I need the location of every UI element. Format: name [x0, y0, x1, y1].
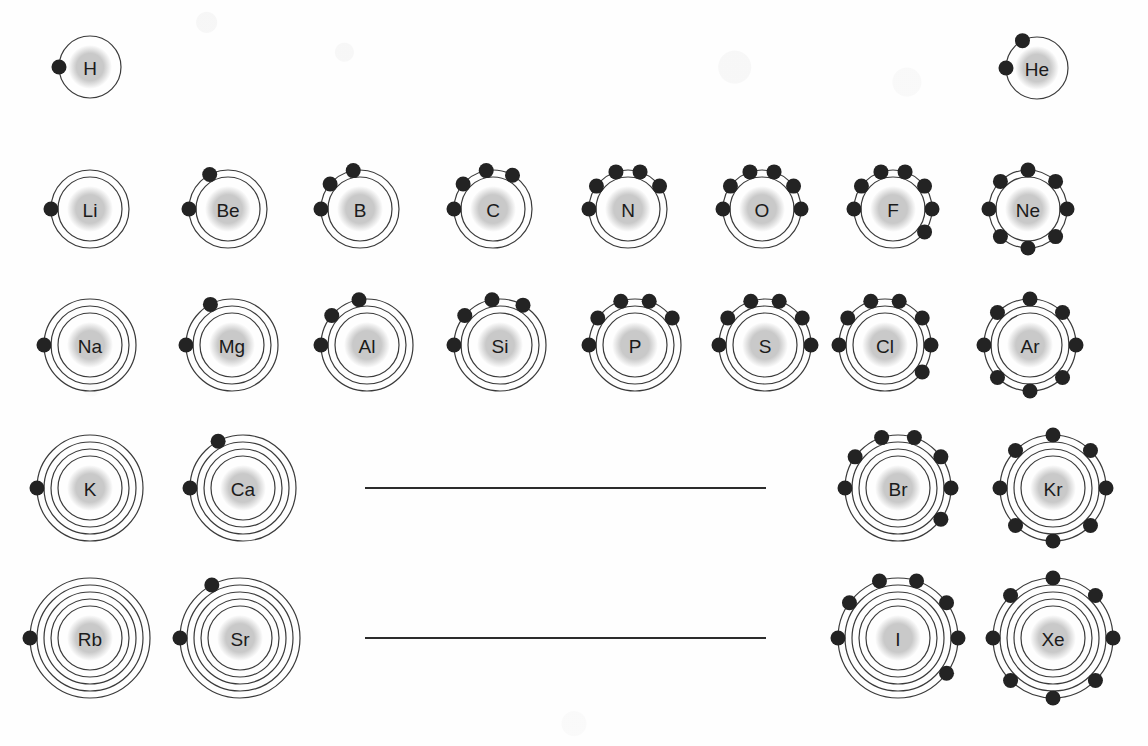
electron — [589, 179, 604, 194]
element-symbol: Rb — [78, 629, 102, 650]
electron — [1008, 443, 1023, 458]
electron — [933, 512, 948, 527]
electron — [898, 164, 913, 179]
element-symbol: K — [84, 479, 97, 500]
electron — [786, 179, 801, 194]
electron — [456, 176, 471, 191]
atom-he: He — [994, 25, 1081, 112]
electron — [925, 202, 940, 217]
atom-mg: Mg — [174, 287, 291, 404]
electron — [939, 595, 954, 610]
electron — [1055, 305, 1070, 320]
element-symbol: Sr — [231, 629, 251, 650]
diagram-canvas: HHeLiBeBCNOFNeNaMgAlSiPSClArKCaBrKrRbSrI… — [0, 0, 1148, 746]
element-symbol: B — [354, 200, 367, 221]
element-symbol: Ne — [1016, 200, 1040, 221]
electron — [951, 631, 966, 646]
electron — [795, 310, 810, 325]
electron — [720, 310, 735, 325]
electron — [990, 370, 1005, 385]
atom-k: K — [25, 423, 156, 554]
atom-c: C — [442, 158, 545, 261]
atom-si: Si — [442, 287, 559, 404]
electron — [1046, 428, 1061, 443]
atom-cl: Cl — [827, 287, 944, 404]
element-symbol: Xe — [1041, 629, 1064, 650]
electron — [314, 202, 329, 217]
atom-rb: Rb — [18, 566, 163, 711]
electron — [986, 631, 1001, 646]
electron — [1015, 33, 1030, 48]
electron — [608, 164, 623, 179]
electron — [665, 310, 680, 325]
electron — [203, 297, 218, 312]
electron — [772, 294, 787, 309]
atom-s: S — [707, 287, 824, 404]
electron — [173, 631, 188, 646]
atom-f: F — [842, 158, 945, 261]
atom-li: Li — [39, 158, 142, 261]
element-symbol: Li — [83, 200, 98, 221]
electron — [743, 294, 758, 309]
electron — [874, 430, 889, 445]
atom-be: Be — [177, 158, 280, 261]
electron — [1046, 571, 1061, 586]
electron — [909, 573, 924, 588]
electron — [652, 179, 667, 194]
electron — [642, 294, 657, 309]
electron — [582, 338, 597, 353]
element-symbol: Cl — [876, 336, 894, 357]
transition-metal-gap-rule — [365, 487, 766, 489]
element-symbol: Ca — [231, 479, 256, 500]
electron — [1023, 384, 1038, 399]
element-symbol: Si — [492, 336, 509, 357]
electron — [1106, 631, 1121, 646]
electron — [447, 338, 462, 353]
atom-br: Br — [833, 423, 964, 554]
electron — [723, 179, 738, 194]
electron — [183, 481, 198, 496]
electron — [202, 167, 217, 182]
electron — [447, 202, 462, 217]
electron — [993, 229, 1008, 244]
electron — [915, 365, 930, 380]
electron — [944, 481, 959, 496]
electron — [863, 294, 878, 309]
electron — [516, 298, 531, 313]
electron — [1046, 691, 1061, 706]
electron — [613, 294, 628, 309]
electron — [1003, 588, 1018, 603]
element-symbol: Br — [889, 479, 909, 500]
atom-b: B — [309, 158, 412, 261]
electron — [712, 338, 727, 353]
element-symbol: Ar — [1021, 336, 1041, 357]
electron — [1099, 481, 1114, 496]
electron — [831, 631, 846, 646]
electron — [873, 164, 888, 179]
element-symbol: F — [887, 200, 899, 221]
electron — [982, 202, 997, 217]
electron — [990, 305, 1005, 320]
electron — [485, 292, 500, 307]
atom-ca: Ca — [178, 423, 309, 554]
electron — [1055, 370, 1070, 385]
electron — [1008, 518, 1023, 533]
atom-n: N — [577, 158, 680, 261]
electron — [1083, 443, 1098, 458]
transition-metal-gap-rule — [365, 637, 766, 639]
electron — [1048, 229, 1063, 244]
electron — [633, 164, 648, 179]
atom-sr: Sr — [168, 566, 313, 711]
element-symbol: Mg — [219, 336, 245, 357]
electron — [794, 202, 809, 217]
electron — [182, 202, 197, 217]
electron — [872, 573, 887, 588]
electron — [44, 202, 59, 217]
electron — [211, 434, 226, 449]
electron — [582, 202, 597, 217]
electron — [1003, 673, 1018, 688]
electron — [742, 164, 757, 179]
atom-p: P — [577, 287, 694, 404]
electron — [840, 310, 855, 325]
atom-kr: Kr — [988, 423, 1119, 554]
